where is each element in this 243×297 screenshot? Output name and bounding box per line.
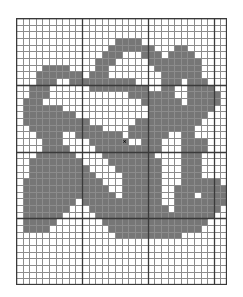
stitch-grid-canvas[interactable] (16, 18, 227, 285)
cross-stitch-chart-page: × (0, 0, 243, 297)
stitch-grid[interactable]: × (16, 18, 227, 285)
